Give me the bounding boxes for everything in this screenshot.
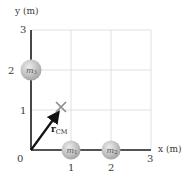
axes	[31, 30, 151, 150]
y-tick-2: 2	[8, 65, 14, 76]
grid	[31, 30, 151, 150]
r-cm-label: rCM	[51, 124, 68, 136]
mass-m3: m3	[21, 60, 42, 81]
r-cm-arrow-accent: →	[51, 118, 56, 125]
x-tick-3: 3	[147, 153, 153, 164]
x-tick-1: 1	[68, 162, 74, 173]
origin-label: 0	[17, 153, 23, 164]
mass-m1: m1	[62, 141, 81, 160]
r-cm-subscript: CM	[56, 128, 68, 136]
y-tick-1: 1	[20, 105, 26, 116]
mass-m2: m2	[102, 141, 121, 160]
x-tick-2: 2	[108, 162, 114, 173]
center-of-mass-marker	[56, 102, 66, 112]
center-of-mass-diagram: y (m) x (m) 0 1 2 3 1 2 3 rCM → m3 m1 m2	[0, 0, 193, 179]
y-axis-title: y (m)	[14, 6, 39, 16]
x-axis-title: x (m)	[158, 144, 182, 154]
y-tick-3: 3	[20, 24, 26, 35]
